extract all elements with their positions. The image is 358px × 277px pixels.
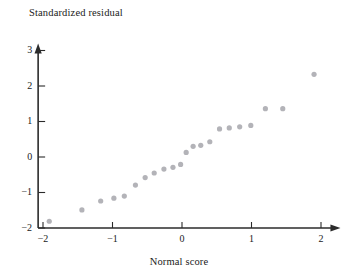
y-axis-arrow-icon	[35, 43, 42, 53]
data-point	[122, 193, 127, 198]
data-point	[237, 124, 242, 129]
y-tick-label: 3	[12, 44, 32, 55]
data-point	[152, 170, 157, 175]
data-point	[133, 182, 138, 187]
data-point	[227, 125, 232, 130]
y-tick-label: −1	[12, 186, 32, 197]
data-point	[178, 162, 183, 167]
data-point	[280, 106, 285, 111]
data-point	[170, 165, 175, 170]
data-point	[161, 166, 166, 171]
x-tick-label: −1	[103, 233, 123, 244]
x-axis-title: Normal score	[0, 256, 358, 267]
data-point	[111, 196, 116, 201]
data-point	[207, 139, 212, 144]
y-tick-label: 0	[12, 151, 32, 162]
x-tick-label: 1	[242, 233, 262, 244]
data-point	[217, 126, 222, 131]
data-point	[98, 198, 103, 203]
x-tick-label: 2	[311, 233, 331, 244]
data-point	[79, 207, 84, 212]
x-axis-arrow-icon	[330, 224, 340, 231]
x-tick-label: 0	[172, 233, 192, 244]
data-point	[311, 72, 316, 77]
y-tick-label: 2	[12, 80, 32, 91]
data-point	[198, 143, 203, 148]
data-point	[248, 123, 253, 128]
y-tick-label: 1	[12, 115, 32, 126]
y-tick-label: −2	[12, 222, 32, 233]
ticks-group	[38, 51, 321, 229]
axes-group	[35, 43, 341, 231]
data-points-group	[47, 72, 317, 224]
data-point	[191, 144, 196, 149]
normal-probability-plot: Standardized residual −2−10123 −2−1012 N…	[0, 0, 358, 277]
data-point	[263, 106, 268, 111]
x-tick-label: −2	[33, 233, 53, 244]
data-point	[47, 219, 52, 224]
data-point	[143, 175, 148, 180]
data-point	[184, 150, 189, 155]
